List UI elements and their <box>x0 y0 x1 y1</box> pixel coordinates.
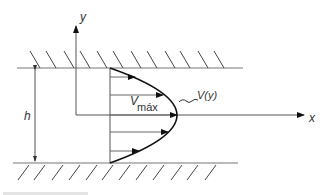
x-axis-label: x <box>308 111 316 125</box>
y-axis-label: y <box>79 10 87 24</box>
vmax-subscript: máx <box>137 101 158 113</box>
footer-bar <box>3 192 88 195</box>
flow-diagram: y x h V máx V(y) <box>0 0 323 195</box>
velocity-arrows <box>110 77 177 151</box>
vy-leader <box>179 99 198 102</box>
velocity-function-label: V(y) <box>197 89 218 101</box>
bottom-wall <box>13 163 238 180</box>
height-label: h <box>24 109 31 123</box>
top-wall <box>17 51 243 68</box>
